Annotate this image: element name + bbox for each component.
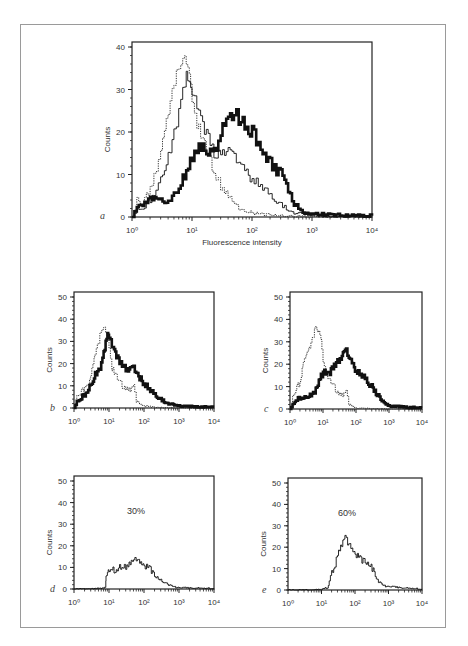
histogram-thin-line — [132, 71, 372, 217]
x-tick-label: 10³ — [306, 226, 318, 235]
y-tick-label: 0 — [277, 586, 282, 595]
panel-label: a — [100, 210, 105, 221]
x-tick-label: 10⁰ — [68, 598, 80, 607]
x-tick-label: 10² — [138, 417, 150, 426]
y-tick-label: 50 — [272, 479, 281, 488]
y-tick-label: 20 — [58, 542, 67, 551]
histogram-dotted-line — [74, 327, 214, 408]
y-tick-label: 10 — [274, 383, 283, 392]
x-tick-label: 10² — [246, 226, 258, 235]
y-tick-label: 30 — [58, 520, 67, 529]
histogram-thin-line — [288, 535, 422, 590]
panel-c-histogram: 0102030405010⁰10¹10²10³10⁴Countsc — [261, 292, 429, 427]
y-tick-label: 30 — [274, 338, 283, 347]
plot-area — [74, 476, 214, 589]
y-tick-label: 20 — [272, 543, 281, 552]
y-tick-label: 50 — [58, 477, 67, 486]
histogram-thick-line — [74, 333, 214, 408]
x-tick-label: 10³ — [383, 599, 395, 608]
panel-a-histogram: 01020304010⁰10¹10²10³10⁴CountsFluorescen… — [100, 42, 379, 247]
panel-label: c — [264, 403, 269, 414]
y-tick-label: 40 — [272, 500, 281, 509]
x-tick-label: 10⁰ — [126, 226, 138, 235]
y-tick-label: 0 — [279, 405, 284, 414]
x-tick-label: 10⁴ — [416, 599, 429, 608]
y-tick-label: 0 — [121, 213, 126, 222]
y-tick-label: 20 — [58, 360, 67, 369]
y-tick-label: 10 — [58, 563, 67, 572]
x-tick-label: 10⁰ — [282, 599, 294, 608]
x-tick-label: 10⁴ — [366, 226, 379, 235]
x-tick-label: 10² — [138, 598, 150, 607]
x-tick-label: 10¹ — [317, 418, 329, 427]
panel-label: b — [50, 402, 55, 413]
x-tick-label: 10⁴ — [208, 417, 221, 426]
panel-label: e — [262, 584, 267, 595]
plot-area — [74, 292, 214, 408]
histogram-thin-line — [74, 558, 214, 590]
x-tick-label: 10³ — [173, 417, 185, 426]
y-tick-label: 30 — [272, 522, 281, 531]
panel-b-histogram: 0102030405010⁰10¹10²10³10⁴Countsb — [45, 292, 221, 426]
x-tick-label: 10⁴ — [416, 418, 429, 427]
y-tick-label: 20 — [116, 128, 125, 137]
y-tick-label: 50 — [274, 293, 283, 302]
y-axis-label: Counts — [45, 530, 54, 555]
plot-area — [288, 478, 422, 590]
percentage-annotation: 60% — [338, 508, 356, 518]
x-tick-label: 10² — [350, 418, 362, 427]
x-tick-label: 10³ — [383, 418, 395, 427]
x-tick-label: 10¹ — [186, 226, 198, 235]
y-tick-label: 40 — [274, 315, 283, 324]
y-tick-label: 30 — [116, 86, 125, 95]
x-tick-label: 10¹ — [103, 417, 115, 426]
panel-e-histogram: 0102030405010⁰10¹10²10³10⁴Countse60% — [259, 478, 429, 608]
y-tick-label: 10 — [272, 565, 281, 574]
x-tick-label: 10³ — [173, 598, 185, 607]
flow-cytometry-figure: 01020304010⁰10¹10²10³10⁴CountsFluorescen… — [0, 0, 468, 646]
x-tick-label: 10⁰ — [284, 418, 296, 427]
y-axis-label: Counts — [259, 531, 268, 556]
x-tick-label: 10⁰ — [68, 417, 80, 426]
y-tick-label: 40 — [116, 43, 125, 52]
x-tick-label: 10² — [349, 599, 361, 608]
y-tick-label: 0 — [63, 585, 68, 594]
percentage-annotation: 30% — [127, 506, 145, 516]
y-tick-label: 10 — [58, 382, 67, 391]
y-axis-label: Counts — [45, 347, 54, 372]
x-axis-label: Fluorescence intensity — [202, 238, 282, 247]
y-axis-label: Counts — [103, 127, 112, 152]
y-tick-label: 20 — [274, 360, 283, 369]
x-tick-label: 10¹ — [103, 598, 115, 607]
y-tick-label: 50 — [58, 293, 67, 302]
y-axis-label: Counts — [261, 348, 270, 373]
y-tick-label: 0 — [63, 404, 68, 413]
histogram-thick-line — [290, 349, 422, 409]
x-tick-label: 10⁴ — [208, 598, 221, 607]
panel-d-histogram: 0102030405010⁰10¹10²10³10⁴Countsd30% — [45, 476, 221, 607]
y-tick-label: 30 — [58, 337, 67, 346]
y-tick-label: 40 — [58, 315, 67, 324]
panel-label: d — [50, 583, 56, 594]
y-tick-label: 10 — [116, 171, 125, 180]
y-tick-label: 40 — [58, 499, 67, 508]
x-tick-label: 10¹ — [316, 599, 328, 608]
plot-area — [290, 292, 422, 409]
